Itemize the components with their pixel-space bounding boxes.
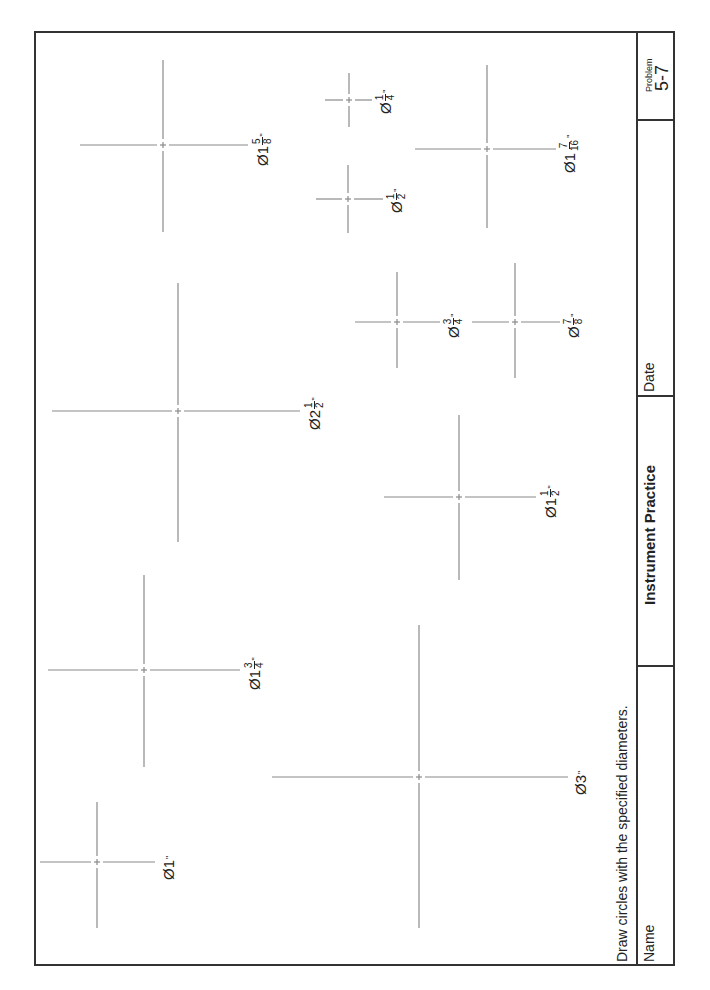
centerlines-layer bbox=[0, 0, 710, 990]
diameter-fraction: 12 bbox=[386, 193, 407, 201]
diameter-label-d1: Ø1" bbox=[160, 856, 177, 880]
diameter-label-d7-8: Ø78" bbox=[563, 314, 584, 338]
inch-mark: " bbox=[565, 135, 575, 138]
diameter-label-d1-2: Ø12" bbox=[386, 189, 407, 213]
diameter-label-d1-5-8: Ø158" bbox=[252, 133, 273, 166]
inch-mark: " bbox=[576, 771, 586, 774]
inch-mark: " bbox=[164, 856, 174, 859]
diameter-label-d1-3-4: Ø134" bbox=[244, 657, 265, 690]
diameter-fraction: 12 bbox=[540, 489, 561, 497]
diameter-fraction: 716 bbox=[559, 139, 580, 152]
inch-mark: " bbox=[381, 90, 391, 93]
diameter-fraction: 78 bbox=[563, 318, 584, 326]
inch-mark: " bbox=[449, 314, 459, 317]
diameter-whole: Ø1 bbox=[561, 153, 578, 173]
diameter-whole: Ø1 bbox=[254, 146, 271, 166]
diameter-label-d1-7-16: Ø1716" bbox=[559, 135, 580, 173]
diameter-fraction: 34 bbox=[244, 661, 265, 669]
inch-mark: " bbox=[392, 189, 402, 192]
diameter-label-d1-1-2: Ø112" bbox=[540, 485, 561, 518]
diameter-fraction: 58 bbox=[252, 137, 273, 145]
diameter-whole: Ø2 bbox=[306, 410, 323, 430]
diameter-fraction: 12 bbox=[304, 401, 325, 409]
diameter-whole: Ø1 bbox=[160, 860, 177, 880]
diameter-whole: Ø3 bbox=[572, 775, 589, 795]
inch-mark: " bbox=[546, 485, 556, 488]
diameter-whole: Ø bbox=[388, 201, 405, 213]
diameter-label-d1-4: Ø14" bbox=[375, 90, 396, 114]
diameter-whole: Ø bbox=[377, 102, 394, 114]
diameter-whole: Ø1 bbox=[542, 498, 559, 518]
diameter-label-d3: Ø3" bbox=[572, 771, 589, 795]
diameter-fraction: 34 bbox=[443, 318, 464, 326]
inch-mark: " bbox=[258, 133, 268, 136]
diameter-whole: Ø bbox=[445, 326, 462, 338]
inch-mark: " bbox=[569, 314, 579, 317]
diameter-whole: Ø bbox=[565, 326, 582, 338]
inch-mark: " bbox=[310, 397, 320, 400]
diameter-whole: Ø1 bbox=[246, 670, 263, 690]
diameter-label-d2-1-2: Ø212" bbox=[304, 397, 325, 430]
diameter-label-d3-4: Ø34" bbox=[443, 314, 464, 338]
inch-mark: " bbox=[250, 657, 260, 660]
diameter-fraction: 14 bbox=[375, 94, 396, 102]
